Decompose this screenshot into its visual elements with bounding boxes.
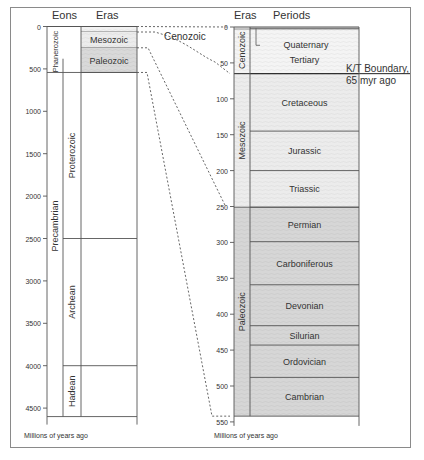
left-tick-label-3000: 3000 <box>25 278 41 285</box>
right-tick-label-0: 0 <box>224 24 228 31</box>
right-header-eras: Eras <box>234 9 257 21</box>
right-tick-label-450: 450 <box>216 347 228 354</box>
right-tick-label-300: 300 <box>216 239 228 246</box>
right-tick-label-150: 150 <box>216 132 228 139</box>
kt-annotation-line1: K/T Boundary, <box>346 63 409 74</box>
left-subeon-label-archean: Archean <box>67 285 77 319</box>
left-header-eras: Eras <box>96 9 119 21</box>
geologic-time-scale-diagram: EonsErasMesozoicPaleozoicProterozoicArch… <box>0 0 424 460</box>
left-axis-label: Millions of years ago <box>24 432 88 440</box>
left-era-label-mesozoic: Mesozoic <box>90 35 129 45</box>
right-header-periods: Periods <box>273 9 311 21</box>
right-tick-label-100: 100 <box>216 96 228 103</box>
period-label-tertiary: Tertiary <box>290 55 320 65</box>
period-label-quaternary: Quaternary <box>283 40 329 50</box>
right-tick-label-500: 500 <box>216 383 228 390</box>
period-label-cretaceous: Cretaceous <box>281 98 328 108</box>
cenozoic-callout: Cenozoic <box>164 31 206 42</box>
left-tick-label-2000: 2000 <box>25 193 41 200</box>
texture <box>234 27 359 74</box>
left-tick-label-0: 0 <box>37 24 41 31</box>
left-tick-label-1000: 1000 <box>25 108 41 115</box>
left-header-eons: Eons <box>52 9 78 21</box>
left-era-label-paleozoic: Paleozoic <box>89 56 129 66</box>
right-axis-label: Millions of years ago <box>214 432 278 440</box>
period-label-devonian: Devonian <box>285 301 323 311</box>
right-tick-label-350: 350 <box>216 275 228 282</box>
left-tick-label-1500: 1500 <box>25 151 41 158</box>
period-label-triassic: Triassic <box>289 184 320 194</box>
period-label-ordovician: Ordovician <box>283 357 326 367</box>
period-label-carboniferous: Carboniferous <box>276 259 333 269</box>
right-tick-label-200: 200 <box>216 168 228 175</box>
right-era-label-paleozoic: Paleozoic <box>237 292 247 332</box>
period-label-silurian: Silurian <box>289 331 319 341</box>
right-era-label-mesozoic: Mesozoic <box>237 121 247 160</box>
right-era-label-cenozoic: Cenozoic <box>237 31 247 69</box>
left-subeon-label-proterozoic: Proterozoic <box>67 132 77 178</box>
left-tick-label-4000: 4000 <box>25 363 41 370</box>
connector-mesozoic <box>137 48 226 207</box>
period-label-permian: Permian <box>288 220 322 230</box>
right-tick-label-550: 550 <box>216 419 228 426</box>
texture <box>81 27 137 33</box>
kt-annotation-line2: 65 myr ago <box>346 75 396 86</box>
period-label-cambrian: Cambrian <box>285 392 324 402</box>
period-label-jurassic: Jurassic <box>288 146 322 156</box>
left-eon-label-precambrian: Precambrian <box>50 200 60 251</box>
left-tick-label-2500: 2500 <box>25 236 41 243</box>
right-tick-label-400: 400 <box>216 311 228 318</box>
left-eon-label-phanerozoic: Phanerozoic <box>51 30 60 72</box>
connector-top-0 <box>137 27 228 28</box>
left-tick-label-3500: 3500 <box>25 320 41 327</box>
left-subeon-label-hadean: Hadean <box>67 375 77 407</box>
right-tick-label-50: 50 <box>220 60 228 67</box>
texture <box>234 207 359 416</box>
left-tick-label-4500: 4500 <box>25 405 41 412</box>
left-tick-label-500: 500 <box>29 66 41 73</box>
